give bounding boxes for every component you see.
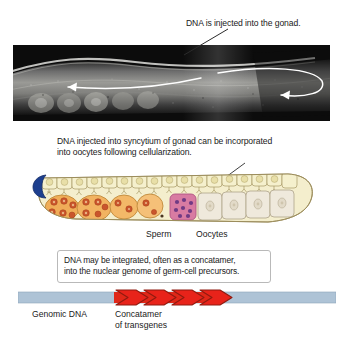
leader-line-icon xyxy=(180,28,230,56)
label-genomic-dna: Genomic DNA xyxy=(32,309,87,320)
gonad-diagram-icon xyxy=(30,172,316,230)
label-concatamer: Concatamer of transgenes xyxy=(115,309,167,331)
genomic-dna-bar-icon xyxy=(18,288,336,308)
boxed-note: DNA may be integrated, often as a concat… xyxy=(57,250,271,283)
figure-panel: DNA is injected into the gonad. DNA inje… xyxy=(0,0,346,343)
caption-syncytium: DNA injected into syncytium of gonad can… xyxy=(57,136,272,159)
label-oocytes: Oocytes xyxy=(196,229,228,240)
boxed-note-text: DNA may be integrated, often as a concat… xyxy=(64,255,264,277)
worm-micrograph-image xyxy=(13,45,330,121)
caption-injection: DNA is injected into the gonad. xyxy=(186,18,300,29)
label-sperm: Sperm xyxy=(146,229,171,240)
